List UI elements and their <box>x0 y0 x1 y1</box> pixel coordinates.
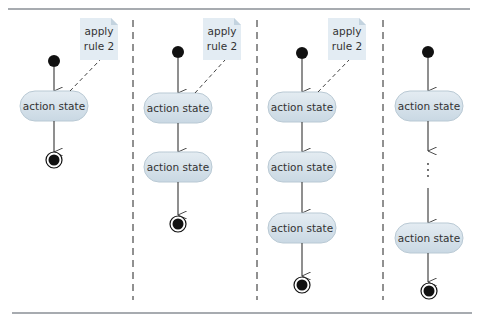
action-state-label: action state <box>271 161 333 173</box>
action-state[interactable]: action state <box>20 91 88 121</box>
action-state[interactable]: action state <box>268 92 336 122</box>
action-state[interactable]: action state <box>268 213 336 243</box>
note-line-2: rule 2 <box>84 40 114 52</box>
action-state[interactable]: action state <box>144 152 212 182</box>
panel-3: action state action state action state a… <box>268 18 366 293</box>
note-anchor-line <box>318 60 349 92</box>
action-state[interactable]: action state <box>395 223 463 253</box>
action-state[interactable]: action state <box>268 152 336 182</box>
note-line-2: rule 2 <box>332 40 362 52</box>
note-anchor-line <box>195 60 225 93</box>
note: apply rule 2 <box>80 18 118 60</box>
note-line-1: apply <box>208 25 237 37</box>
note: apply rule 2 <box>328 18 366 60</box>
final-state-icon <box>294 277 310 293</box>
action-state[interactable]: action state <box>144 93 212 123</box>
action-state-label: action state <box>23 100 85 112</box>
panel-1: action state apply rule 2 <box>20 18 118 168</box>
note: apply rule 2 <box>203 18 241 60</box>
initial-state-icon <box>296 47 308 59</box>
initial-state-icon <box>48 55 60 67</box>
action-state-label: action state <box>398 232 460 244</box>
ellipsis-icon <box>427 163 429 177</box>
action-state-label: action state <box>398 100 460 112</box>
final-state-icon <box>421 283 437 299</box>
note-line-2: rule 2 <box>207 40 237 52</box>
activity-diagram: action state apply rule 2 action state a… <box>0 0 482 317</box>
action-state-label: action state <box>271 101 333 113</box>
action-state-label: action state <box>147 102 209 114</box>
initial-state-icon <box>172 46 184 58</box>
action-state[interactable]: action state <box>395 91 463 121</box>
action-state-label: action state <box>147 161 209 173</box>
final-state-icon <box>46 152 62 168</box>
initial-state-icon <box>422 46 434 58</box>
note-line-1: apply <box>85 25 114 37</box>
note-anchor-line <box>70 60 100 91</box>
action-state-label: action state <box>271 222 333 234</box>
panel-2: action state action state apply rule 2 <box>144 18 241 232</box>
note-line-1: apply <box>333 25 362 37</box>
panel-4: action state action state <box>395 46 463 299</box>
final-state-icon <box>170 216 186 232</box>
